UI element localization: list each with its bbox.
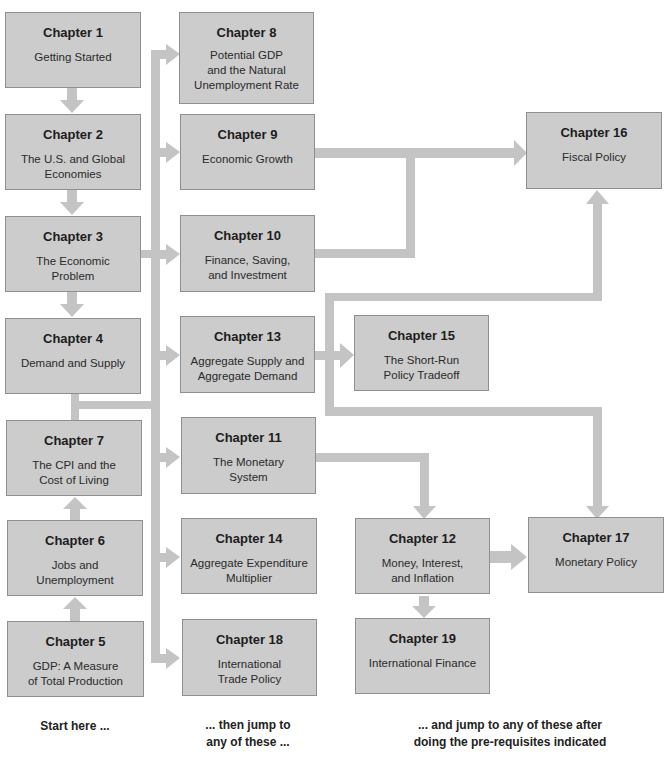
chapter-number: Chapter 3 [6, 229, 140, 244]
chapter-number: Chapter 2 [6, 127, 140, 142]
chapter-title: The Short-Run Policy Tradeoff [355, 353, 488, 383]
chapter-number: Chapter 18 [183, 632, 316, 647]
arrow-ch2-ch3 [60, 190, 84, 215]
chapter-number: Chapter 5 [8, 634, 143, 649]
chapter-number: Chapter 16 [527, 125, 661, 140]
chapter-1-box: Chapter 1 Getting Started [5, 12, 141, 88]
chapter-3-box: Chapter 3 The Economic Problem [5, 216, 141, 292]
chapter-14-box: Chapter 14 Aggregate Expenditure Multipl… [181, 518, 317, 594]
chapter-4-box: Chapter 4 Demand and Supply [5, 318, 141, 394]
chapter-15-box: Chapter 15 The Short-Run Policy Tradeoff [354, 315, 489, 391]
chapter-title: Money, Interest, and Inflation [356, 556, 489, 586]
arrow-ch13-ch15 [315, 343, 354, 368]
chapter-number: Chapter 19 [356, 631, 489, 646]
chapter-2-box: Chapter 2 The U.S. and Global Economies [5, 114, 141, 190]
arrow-ch12-ch19 [412, 596, 436, 618]
chapter-9-box: Chapter 9 Economic Growth [180, 114, 315, 190]
chapter-number: Chapter 9 [181, 127, 314, 142]
chapter-title: The CPI and the Cost of Living [7, 458, 141, 488]
chapter-title: Potential GDP and the Natural Unemployme… [180, 48, 313, 93]
chapter-number: Chapter 10 [181, 228, 314, 243]
chapter-number: Chapter 17 [529, 530, 663, 545]
chapter-number: Chapter 13 [181, 329, 314, 344]
chapter-title: International Trade Policy [183, 657, 316, 687]
chapter-title: Demand and Supply [6, 356, 140, 371]
chapter-title: Aggregate Expenditure Multiplier [182, 556, 316, 586]
chapter-12-box: Chapter 12 Money, Interest, and Inflatio… [355, 518, 490, 594]
chapter-number: Chapter 15 [355, 328, 488, 343]
chapter-title: The Monetary System [182, 455, 315, 485]
arrow-ch1-ch2 [60, 88, 84, 113]
arrow-to-ch16-up [586, 190, 609, 204]
chapter-16-box: Chapter 16 Fiscal Policy [526, 112, 662, 189]
chapter-19-box: Chapter 19 International Finance [355, 618, 490, 694]
chapter-18-box: Chapter 18 International Trade Policy [182, 619, 317, 696]
caption-start: Start here ... [5, 718, 145, 735]
chapter-number: Chapter 14 [182, 531, 316, 546]
chapter-17-box: Chapter 17 Monetary Policy [528, 517, 664, 593]
chapter-title: Fiscal Policy [527, 150, 661, 165]
chapter-number: Chapter 7 [7, 433, 141, 448]
chapter-7-box: Chapter 7 The CPI and the Cost of Living [6, 420, 142, 496]
chapter-number: Chapter 1 [6, 25, 140, 40]
chapter-number: Chapter 11 [182, 430, 315, 445]
chapter-title: Getting Started [6, 50, 140, 65]
chapter-number: Chapter 12 [356, 531, 489, 546]
chapter-number: Chapter 6 [8, 533, 142, 548]
chapter-number: Chapter 8 [180, 25, 313, 40]
chapter-title: Economic Growth [181, 152, 314, 167]
arrow-ch12-ch17 [489, 544, 527, 570]
chapter-10-box: Chapter 10 Finance, Saving, and Investme… [180, 215, 315, 292]
arrow-ch5-ch6 [63, 597, 87, 621]
chapter-title: GDP: A Measure of Total Production [8, 659, 143, 689]
chapter-8-box: Chapter 8 Potential GDP and the Natural … [179, 12, 314, 104]
chapter-title: Aggregate Supply and Aggregate Demand [181, 354, 314, 384]
arrow-ch6-ch7 [63, 497, 87, 520]
chapter-13-box: Chapter 13 Aggregate Supply and Aggregat… [180, 316, 315, 393]
chapter-title: Finance, Saving, and Investment [181, 253, 314, 283]
chapter-title: The Economic Problem [6, 254, 140, 284]
chapter-6-box: Chapter 6 Jobs and Unemployment [7, 520, 143, 596]
chapter-11-box: Chapter 11 The Monetary System [181, 417, 316, 494]
chapter-number: Chapter 4 [6, 331, 140, 346]
chapter-5-box: Chapter 5 GDP: A Measure of Total Produc… [7, 621, 144, 697]
caption-then: ... then jump to any of these ... [178, 717, 318, 751]
arrow-ch9-ch16 [315, 140, 527, 166]
arrow-ch3-ch4 [60, 292, 84, 317]
chapter-title: Jobs and Unemployment [8, 558, 142, 588]
chapter-title: The U.S. and Global Economies [6, 152, 140, 182]
chapter-title: International Finance [356, 656, 489, 671]
chapter-title: Monetary Policy [529, 555, 663, 570]
caption-after: ... and jump to any of these after doing… [370, 717, 650, 751]
